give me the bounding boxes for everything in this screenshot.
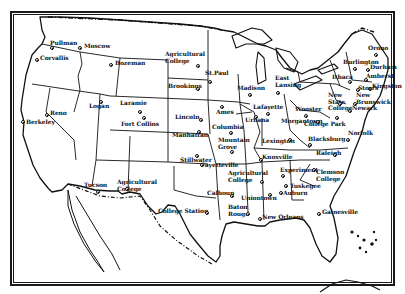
city-label: Bozeman [115,60,145,67]
city-label: Fayetteville [201,162,238,169]
college-marker-icon [50,46,54,50]
city-label: Newark [352,105,377,112]
city-label: Norfolk [348,130,373,137]
college-marker-icon [317,212,321,216]
college-marker-icon [312,168,316,172]
college-marker-icon [348,109,352,113]
city-label: Blacksburg [308,136,345,143]
college-marker-icon [45,113,49,117]
city-label: Columbia [212,124,243,131]
college-marker-icon [338,102,342,106]
college-marker-icon [125,187,129,191]
college-marker-icon [353,67,357,71]
college-marker-icon [308,143,312,147]
college-marker-icon [229,131,233,135]
city-label: Laramie [120,100,147,107]
college-marker-icon [196,87,200,91]
college-marker-icon [284,184,288,188]
college-marker-icon [35,58,39,62]
city-label: St.Paul [205,70,228,77]
city-label: Gainesville [322,209,358,216]
college-marker-icon [200,163,204,167]
college-marker-icon [109,63,113,67]
college-marker-icon [258,217,262,221]
city-label: Mountain Grove [218,137,250,150]
college-marker-icon [99,100,103,104]
city-label: Lafayette [253,104,283,111]
college-marker-icon [333,153,337,157]
city-label: Clemson College [316,169,344,182]
city-label: Tucson [84,182,107,189]
city-label: College Station [158,208,208,215]
college-marker-icon [21,120,25,124]
college-marker-icon [259,158,263,162]
college-marker-icon [138,110,142,114]
city-label: Moscow [84,43,110,50]
city-label: Wooster [295,106,322,113]
city-label: Storrs [358,85,378,92]
city-label: Amherst [366,73,394,80]
college-marker-icon [96,190,100,194]
college-marker-icon [288,138,292,142]
college-marker-icon [248,93,252,97]
city-label: Ames [216,109,234,116]
college-marker-icon [78,46,82,50]
city-label: New Orleans [262,214,304,221]
college-marker-icon [279,191,283,195]
college-marker-icon [260,180,264,184]
college-marker-icon [142,116,146,120]
college-marker-icon [205,211,209,215]
city-label: Logan [89,103,109,110]
college-marker-icon [335,116,339,120]
city-label: Manhattan [172,132,208,139]
city-label: College Park [304,121,346,128]
city-label: Corvallis [40,55,69,62]
city-label: Durham [370,64,397,71]
city-label: East Lansing [275,75,301,88]
college-marker-icon [276,91,280,95]
college-marker-icon [230,150,234,154]
college-marker-icon [254,115,258,119]
city-label: Raleigh [316,150,341,157]
city-label: Auburn [283,190,308,197]
college-marker-icon [195,154,199,158]
college-marker-icon [346,138,350,142]
city-label: Reno [50,110,67,117]
city-label: Knoxville [262,154,292,161]
college-marker-icon [356,88,360,92]
city-label: Madison [237,85,265,92]
college-marker-icon [364,78,368,82]
college-marker-icon [197,130,201,134]
college-marker-icon [348,80,352,84]
city-label: Lincoln [175,114,199,121]
city-label: Fort Collins [121,121,159,128]
city-label: Agricultural College [117,179,157,192]
college-marker-icon [230,194,234,198]
college-marker-icon [196,64,200,68]
city-label: Orono [368,45,388,52]
college-marker-icon [246,212,250,216]
college-marker-icon [268,193,272,197]
city-label: Berkeley [26,119,55,126]
college-marker-icon [208,80,212,84]
college-marker-icon [281,174,285,178]
college-marker-icon [374,53,378,57]
college-marker-icon [220,105,224,109]
city-label: Agricultural College [165,51,205,64]
city-label: Pullman [50,40,77,47]
college-marker-icon [199,118,203,122]
